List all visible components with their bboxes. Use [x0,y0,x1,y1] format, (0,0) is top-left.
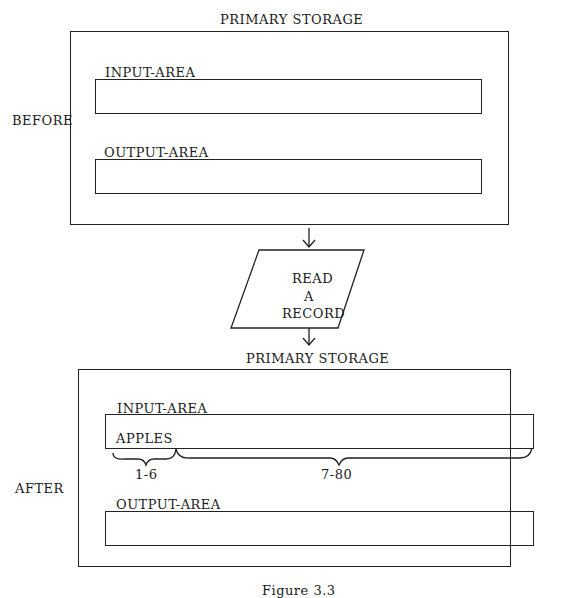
brace-label-1-6: 1-6 [135,468,157,481]
after-side-label: AFTER [15,482,64,495]
after-storage-title: PRIMARY STORAGE [246,352,389,365]
process-line-1: READ [292,272,333,285]
after-input-area-content: APPLES [116,432,173,445]
arrow-down-icon [303,228,315,247]
figure-caption: Figure 3.3 [262,584,336,597]
after-output-area-field [105,511,534,546]
process-line-2: A [304,290,314,303]
brace-label-7-80: 7-80 [321,468,352,481]
process-line-3: RECORD [282,307,345,320]
after-output-area-label: OUTPUT-AREA [116,498,221,511]
arrow-down-icon [303,328,315,345]
